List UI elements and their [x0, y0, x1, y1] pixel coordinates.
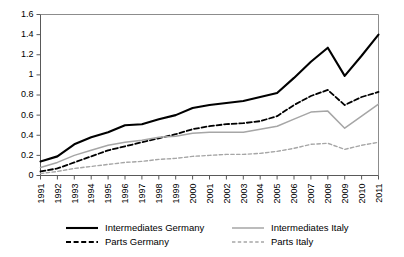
y-tick-label: 1.4 — [21, 29, 34, 39]
x-tick-label: 2001 — [205, 184, 215, 204]
legend-label: Parts Germany — [105, 236, 169, 247]
y-tick-label: 0.8 — [21, 89, 34, 99]
x-tick-label: 1999 — [171, 184, 181, 204]
legend-item[interactable]: Parts Germany — [66, 236, 169, 247]
x-tick-label: 2009 — [340, 184, 350, 204]
x-tick-label: 2000 — [188, 184, 198, 204]
x-tick-label: 2002 — [222, 184, 232, 204]
line-chart: 00.20.40.60.811.21.41.619911992199319941… — [0, 0, 404, 257]
y-tick-label: 1.2 — [21, 49, 34, 59]
x-tick-label: 1997 — [137, 184, 147, 204]
series-line-parts-italy: Parts Italy — [41, 142, 379, 173]
y-tick-label: 0.2 — [21, 150, 34, 160]
legend-item[interactable]: Intermediates Germany — [66, 222, 205, 233]
x-tick-label: 2008 — [323, 184, 333, 204]
data-series-group: Intermediates GermanyParts GermanyInterm… — [41, 35, 379, 174]
x-axis: 1991199219931994199519961997199819992000… — [36, 176, 384, 204]
x-tick-label: 1992 — [53, 184, 63, 204]
series-line-intermediates-germany: Intermediates Germany — [41, 35, 379, 162]
legend-item[interactable]: Intermediates Italy — [232, 222, 349, 233]
x-tick-label: 2003 — [239, 184, 249, 204]
x-tick-label: 2005 — [272, 184, 282, 204]
x-tick-label: 2004 — [255, 184, 265, 204]
y-tick-label: 1 — [28, 69, 33, 79]
x-tick-label: 1998 — [154, 184, 164, 204]
x-tick-label: 2010 — [357, 184, 367, 204]
x-tick-label: 2007 — [306, 184, 316, 204]
chart-canvas: 00.20.40.60.811.21.41.619911992199319941… — [0, 0, 404, 257]
legend-label: Parts Italy — [271, 236, 313, 247]
series-line-parts-germany: Parts Germany — [41, 90, 379, 172]
x-tick-label: 1995 — [103, 184, 113, 204]
plot-frame — [41, 15, 379, 176]
x-tick-label: 1994 — [86, 184, 96, 204]
y-axis: 00.20.40.60.811.21.41.6 — [21, 9, 41, 180]
legend: Intermediates GermanyParts GermanyInterm… — [66, 222, 349, 247]
x-tick-label: 1996 — [120, 184, 130, 204]
legend-label: Intermediates Italy — [271, 222, 349, 233]
x-tick-label: 1991 — [36, 184, 46, 204]
y-tick-label: 0 — [28, 170, 33, 180]
legend-item[interactable]: Parts Italy — [232, 236, 313, 247]
y-tick-label: 1.6 — [21, 9, 34, 19]
y-tick-label: 0.6 — [21, 110, 34, 120]
x-tick-label: 2011 — [374, 184, 384, 203]
x-tick-label: 1993 — [70, 184, 80, 204]
x-tick-label: 2006 — [289, 184, 299, 204]
legend-label: Intermediates Germany — [105, 222, 205, 233]
y-tick-label: 0.4 — [21, 130, 34, 140]
series-line-intermediates-italy: Intermediates Italy — [41, 104, 379, 167]
